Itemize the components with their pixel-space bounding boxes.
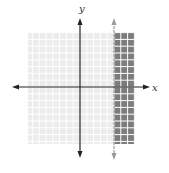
boundary-arrow-down-icon [112,153,117,160]
coordinate-plane: x y [0,0,169,173]
unshaded-region [28,32,114,144]
x-axis-label: x [152,82,158,93]
x-axis-arrow-left-icon [12,85,19,90]
x-axis-arrow-right-icon [143,85,150,90]
y-axis-arrow-up-icon [78,18,83,25]
y-axis-label: y [78,3,85,14]
shaded-region [114,32,135,144]
y-axis-arrow-down-icon [78,151,83,158]
boundary-arrow-up-icon [112,18,117,25]
